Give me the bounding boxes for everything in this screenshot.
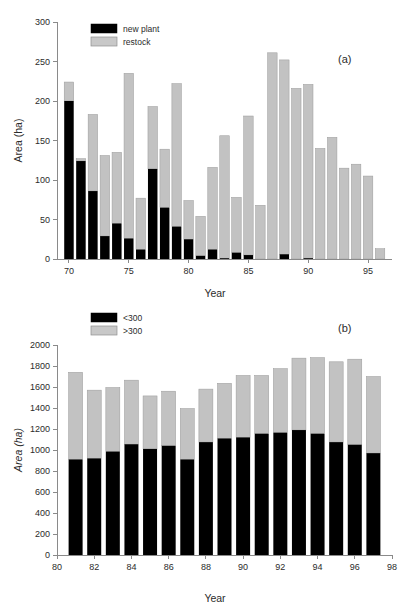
bar-group	[100, 156, 110, 259]
bar-segment-lower	[348, 445, 362, 555]
bar-segment-upper	[184, 201, 194, 240]
bar-group	[220, 136, 230, 259]
bar-segment-lower	[311, 434, 325, 555]
bar-segment-upper	[292, 88, 302, 259]
bar-group	[348, 359, 362, 555]
bar-group	[143, 396, 157, 555]
panel-b-legend-swatch-lt300	[91, 313, 117, 322]
bar-group	[180, 409, 194, 555]
bar-group	[112, 152, 122, 259]
y-tick-label: 400	[35, 508, 50, 518]
x-tick-label: 80	[52, 562, 62, 572]
y-tick-label: 1000	[30, 445, 50, 455]
bar-segment-lower	[208, 250, 218, 259]
bar-group	[292, 358, 306, 555]
bar-group	[184, 201, 194, 259]
y-tick-label: 250	[35, 57, 50, 67]
x-tick-label: 88	[201, 562, 211, 572]
bar-group	[124, 73, 134, 259]
bar-segment-lower	[136, 250, 146, 259]
bar-group	[199, 389, 213, 555]
x-tick-label: 94	[313, 562, 323, 572]
bar-segment-upper	[106, 388, 120, 452]
panel-b-legend-swatch-gt300	[91, 326, 117, 335]
bar-segment-upper	[218, 383, 232, 438]
bar-segment-upper	[148, 107, 158, 169]
bar-group	[273, 369, 287, 555]
bar-group	[327, 137, 337, 259]
bar-group	[244, 116, 254, 259]
x-tick-label: 75	[124, 266, 134, 276]
bar-segment-upper	[69, 372, 83, 459]
bar-segment-upper	[273, 369, 287, 433]
bar-segment-upper	[88, 114, 98, 191]
bar-segment-upper	[172, 84, 182, 227]
bar-segment-lower	[148, 169, 158, 259]
bar-segment-upper	[143, 396, 157, 449]
panel-a-svg: 050100150200250300707580859095 Area (ha)…	[0, 0, 409, 305]
bar-group	[136, 198, 146, 259]
bar-segment-upper	[315, 148, 325, 259]
bar-segment-upper	[136, 198, 146, 249]
bar-segment-lower	[172, 227, 182, 259]
y-tick-label: 1800	[30, 361, 50, 371]
x-tick-label: 95	[363, 266, 373, 276]
bar-group	[69, 372, 83, 555]
bar-segment-upper	[311, 358, 325, 434]
panel-a-legend-swatch-new-plant	[91, 24, 117, 33]
panel-a-legend: new plant restock	[91, 24, 160, 47]
bar-segment-upper	[124, 73, 134, 238]
bar-segment-upper	[292, 358, 306, 430]
bar-group	[280, 60, 290, 259]
y-tick-label: 1400	[30, 403, 50, 413]
bar-group	[160, 149, 170, 259]
bar-segment-upper	[363, 176, 373, 259]
panel-a-label: (a)	[338, 53, 351, 65]
panel-b-legend: <300 >300	[91, 313, 142, 336]
bar-segment-lower	[69, 459, 83, 555]
bar-segment-upper	[232, 197, 242, 252]
x-tick-label: 90	[238, 562, 248, 572]
y-tick-label: 300	[35, 17, 50, 27]
bar-group	[339, 168, 349, 259]
bar-segment-upper	[366, 377, 380, 454]
bar-segment-upper	[220, 136, 230, 258]
bar-group	[124, 380, 138, 555]
y-tick-label: 600	[35, 487, 50, 497]
y-tick-label: 150	[35, 136, 50, 146]
bar-segment-lower	[124, 444, 138, 555]
bar-group	[88, 114, 98, 259]
y-tick-label: 100	[35, 175, 50, 185]
bar-group	[311, 358, 325, 555]
bar-group	[106, 388, 120, 555]
bar-group	[366, 377, 380, 556]
bar-segment-lower	[184, 239, 194, 259]
bar-segment-upper	[348, 359, 362, 445]
bar-segment-upper	[162, 391, 176, 446]
bar-segment-lower	[329, 442, 343, 555]
panel-b-legend-label-gt300: >300	[123, 326, 142, 336]
y-tick-label: 50	[40, 215, 50, 225]
panel-a-legend-label-new-plant: new plant	[123, 24, 160, 34]
bar-segment-lower	[143, 449, 157, 555]
bar-segment-lower	[100, 236, 110, 259]
y-tick-label: 1600	[30, 382, 50, 392]
bar-segment-lower	[162, 446, 176, 555]
bar-segment-lower	[87, 458, 101, 555]
bar-group	[268, 53, 278, 259]
bar-group	[162, 391, 176, 555]
bar-group	[329, 362, 343, 555]
y-tick-label: 2000	[30, 340, 50, 350]
panel-a-chart: 050100150200250300707580859095 Area (ha)…	[0, 0, 409, 305]
bar-segment-lower	[244, 255, 254, 259]
bar-segment-lower	[366, 453, 380, 555]
bar-group	[64, 82, 74, 259]
bar-group	[236, 375, 250, 555]
panel-a-legend-swatch-restock	[91, 37, 117, 46]
bar-segment-lower	[292, 430, 306, 555]
y-tick-label: 0	[45, 550, 50, 560]
bar-segment-upper	[180, 409, 194, 460]
bar-segment-lower	[218, 438, 232, 555]
bar-group	[232, 197, 242, 259]
bar-segment-upper	[236, 375, 250, 437]
